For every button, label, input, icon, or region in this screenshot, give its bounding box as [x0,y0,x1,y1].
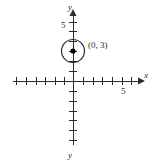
y-axis-label-bottom: y [68,151,72,160]
y-axis-label-top: y [68,3,72,12]
x-axis-tick-label-5: 5 [121,87,126,96]
graph-canvas [0,0,156,165]
center-point-marker [70,48,75,53]
y-axis-tick-label-5: 5 [61,21,66,30]
point-coordinate-label: (0, 3) [88,41,108,50]
x-axis-label-right: x [144,71,148,80]
coordinate-plane-figure: y y x 5 5 (0, 3) [0,0,156,165]
